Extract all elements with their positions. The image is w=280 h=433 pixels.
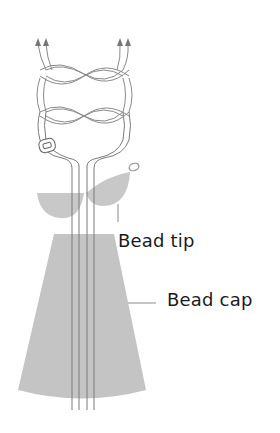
cord-ends (38, 44, 128, 70)
cord-loop (37, 78, 132, 112)
bead-tip-label: Bead tip (118, 230, 195, 251)
arrow-up-icon (125, 38, 131, 46)
arrow-up-icon (43, 38, 49, 46)
bead-cap-shape (18, 234, 146, 399)
bead-cap-label: Bead cap (167, 289, 253, 310)
square-knot-upper (40, 65, 129, 84)
arrow-up-icon (35, 38, 41, 46)
arrow-up-icon (117, 38, 123, 46)
bead-knot-diagram (0, 0, 280, 433)
clasp-icon (38, 137, 57, 154)
arrow-icons (35, 38, 131, 46)
square-knot-lower (40, 107, 129, 124)
bead-tip-loop (128, 162, 140, 172)
bead-tip-left-half (37, 193, 84, 218)
bead-tip-right-half (86, 172, 130, 206)
